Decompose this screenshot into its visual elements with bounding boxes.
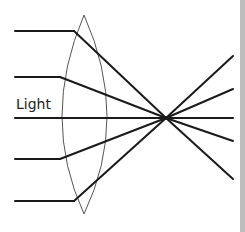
lens-diagram: Light	[0, 0, 245, 232]
incoming-rays	[15, 31, 166, 201]
edge-bar	[240, 0, 245, 232]
refracted-rays	[60, 31, 233, 201]
ray-5-refracted	[74, 56, 233, 201]
ray-2-refracted	[60, 77, 233, 141]
light-label: Light	[16, 96, 51, 112]
lens-left-surface	[62, 15, 84, 214]
diagram-canvas: Light	[0, 0, 245, 232]
focal-point	[164, 116, 168, 120]
ray-1-refracted	[74, 31, 233, 179]
